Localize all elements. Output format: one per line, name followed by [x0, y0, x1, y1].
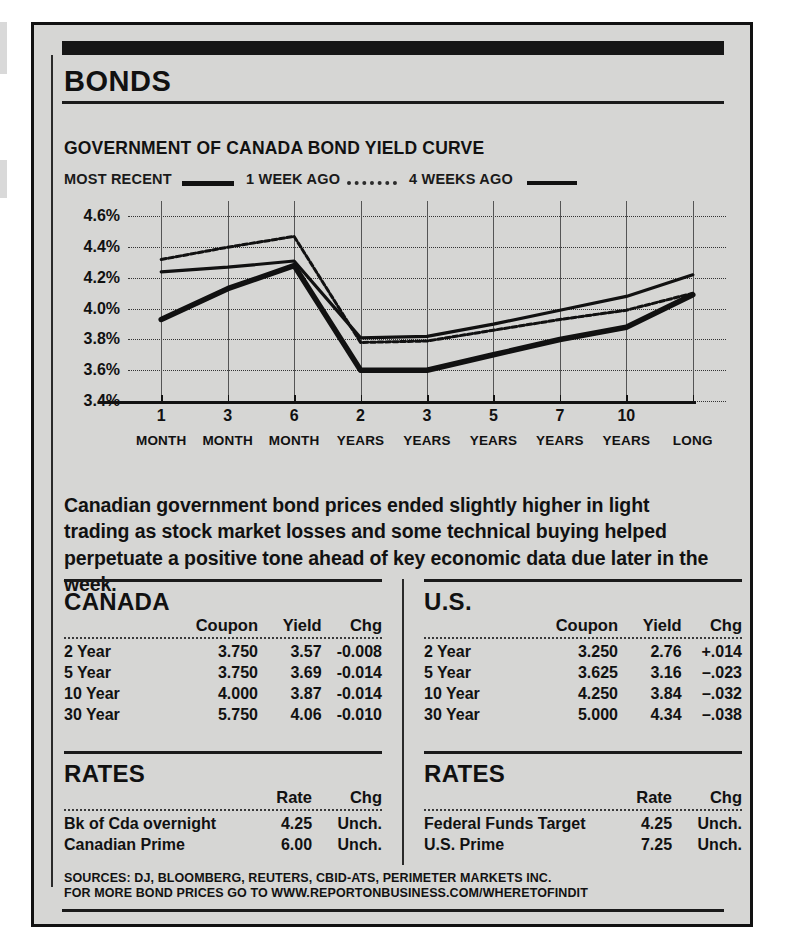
- col-header-label: [424, 616, 542, 636]
- cell-rate: 4.25: [242, 813, 312, 834]
- legend-label-1-week-ago: 1 WEEK AGO: [246, 171, 340, 187]
- x-axis-tick-unit: MONTH: [269, 433, 320, 448]
- legend-swatch-most-recent: [182, 181, 234, 186]
- col-header-chg: Chg: [322, 616, 382, 636]
- cell-coupon: 3.750: [182, 641, 258, 662]
- bonds-panel: BONDS GOVERNMENT OF CANADA BOND YIELD CU…: [31, 22, 753, 927]
- col-header-coupon: Coupon: [182, 616, 258, 636]
- cell-rate: 7.25: [602, 834, 672, 855]
- x-axis-tick-number: 10: [617, 407, 635, 425]
- cell-yield: 3.84: [618, 683, 682, 704]
- cell-label: 10 Year: [424, 683, 542, 704]
- x-axis-tick: [361, 395, 363, 402]
- col-header-rate: Rate: [602, 788, 672, 808]
- cell-label: 2 Year: [64, 641, 182, 662]
- cell-label: 2 Year: [424, 641, 542, 662]
- legend-label-most-recent: MOST RECENT: [64, 171, 172, 187]
- cell-chg: –.032: [682, 683, 742, 704]
- cell-yield: 4.06: [258, 704, 322, 725]
- us-bonds-table: Coupon Yield Chg: [424, 616, 742, 636]
- cell-chg: Unch.: [312, 813, 382, 834]
- adjacent-column-artifact: [0, 160, 7, 198]
- cell-chg: Unch.: [312, 834, 382, 855]
- canada-bonds-section: CANADA Coupon Yield Chg 2 Year3.7503.57-…: [64, 579, 382, 725]
- cell-label: Bk of Cda overnight: [64, 813, 242, 834]
- y-axis-tick-label: 4.4%: [84, 238, 120, 256]
- canada-bonds-body: 2 Year3.7503.57-0.0085 Year3.7503.69-0.0…: [64, 641, 382, 725]
- cell-rate: 4.25: [602, 813, 672, 834]
- cell-label: Federal Funds Target: [424, 813, 602, 834]
- table-row: Bk of Cda overnight4.25Unch.: [64, 813, 382, 834]
- legend-swatch-4-weeks-ago: [527, 181, 577, 185]
- section-rule: [424, 751, 742, 754]
- us-rates-table: Rate Chg: [424, 788, 742, 808]
- cell-chg: -0.014: [322, 683, 382, 704]
- x-axis-tick: [294, 395, 296, 402]
- table-row: 2 Year3.2502.76+.014: [424, 641, 742, 662]
- x-axis-tick-number: 2: [356, 407, 365, 425]
- x-axis-tick-number: 1: [157, 407, 166, 425]
- legend-label-4-weeks-ago: 4 WEEKS AGO: [409, 171, 513, 187]
- x-axis-tick: [427, 395, 429, 402]
- header-dot-rule: [424, 637, 742, 639]
- sources-footer: SOURCES: DJ, BLOOMBERG, REUTERS, CBID-AT…: [64, 871, 714, 901]
- section-rule: [64, 579, 382, 582]
- col-header-chg: Chg: [312, 788, 382, 808]
- table-row: 30 Year5.7504.06-0.010: [64, 704, 382, 725]
- table-row: U.S. Prime7.25Unch.: [424, 834, 742, 855]
- cell-label: U.S. Prime: [424, 834, 602, 855]
- cell-chg: –.038: [682, 704, 742, 725]
- cell-coupon: 3.750: [182, 662, 258, 683]
- series-line-1-week-ago: [161, 236, 693, 342]
- cell-coupon: 5.750: [182, 704, 258, 725]
- x-axis-tick: [228, 395, 230, 402]
- cell-coupon: 3.250: [542, 641, 618, 662]
- canada-rates-section: RATES Rate Chg Bk of Cda overnight4.25Un…: [64, 751, 382, 855]
- newspaper-page: BONDS GOVERNMENT OF CANADA BOND YIELD CU…: [0, 0, 788, 952]
- x-axis-tick-number: 5: [489, 407, 498, 425]
- cell-chg: -0.010: [322, 704, 382, 725]
- table-header-row: Coupon Yield Chg: [424, 616, 742, 636]
- series-line-most-recent: [161, 266, 693, 371]
- cell-chg: Unch.: [672, 813, 742, 834]
- cell-chg: -0.014: [322, 662, 382, 683]
- table-header-row: Rate Chg: [424, 788, 742, 808]
- cell-label: 30 Year: [64, 704, 182, 725]
- canada-rates-body: Bk of Cda overnight4.25Unch.Canadian Pri…: [64, 813, 382, 855]
- cell-yield: 3.57: [258, 641, 322, 662]
- col-header-coupon: Coupon: [542, 616, 618, 636]
- canada-rates-title: RATES: [64, 751, 382, 788]
- x-axis-tick: [560, 395, 562, 402]
- us-bonds-body: 2 Year3.2502.76+.0145 Year3.6253.16–.023…: [424, 641, 742, 725]
- cell-label: 10 Year: [64, 683, 182, 704]
- x-axis-tick-unit: YEARS: [536, 433, 584, 448]
- x-axis-tick: [693, 395, 695, 402]
- y-axis-tick-label: 4.6%: [84, 207, 120, 225]
- cell-label: Canadian Prime: [64, 834, 242, 855]
- column-divider: [402, 579, 404, 865]
- col-header-label: [64, 788, 242, 808]
- y-axis-tick-label: 4.0%: [84, 300, 120, 318]
- us-rates-section: RATES Rate Chg Federal Funds Target4.25U…: [424, 751, 742, 855]
- cell-label: 5 Year: [64, 662, 182, 683]
- section-rule: [64, 751, 382, 754]
- cell-chg: Unch.: [672, 834, 742, 855]
- col-header-rate: Rate: [242, 788, 312, 808]
- x-axis-tick-number: 3: [423, 407, 432, 425]
- masthead-bar: [62, 41, 724, 55]
- table-row: 30 Year5.0004.34–.038: [424, 704, 742, 725]
- bottom-rule: [62, 909, 724, 912]
- cell-coupon: 4.250: [542, 683, 618, 704]
- series-line-4-weeks-ago: [161, 261, 693, 338]
- cell-yield: 3.16: [618, 662, 682, 683]
- sources-line-1: SOURCES: DJ, BLOOMBERG, REUTERS, CBID-AT…: [64, 871, 714, 886]
- cell-chg: –.023: [682, 662, 742, 683]
- table-header-row: Rate Chg: [64, 788, 382, 808]
- table-row: 5 Year3.6253.16–.023: [424, 662, 742, 683]
- header-dot-rule: [424, 809, 742, 811]
- panel-inner-rule: [51, 55, 53, 887]
- x-axis-tick-number: 3: [223, 407, 232, 425]
- cell-yield: 4.34: [618, 704, 682, 725]
- canada-bonds-table: Coupon Yield Chg: [64, 616, 382, 636]
- table-row: Federal Funds Target4.25Unch.: [424, 813, 742, 834]
